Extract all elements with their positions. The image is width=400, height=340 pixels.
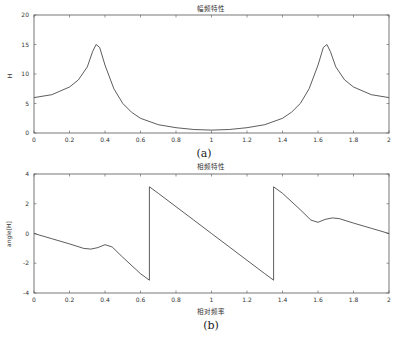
phase-caption: (b) [203,319,219,332]
y-tick-label: 2 [25,200,29,207]
magnitude-plot-frame [34,15,389,133]
x-tick-label: 0 [32,136,36,143]
x-tick-label: 0.8 [171,296,181,303]
phase-title: 相频特性 [197,162,225,171]
x-tick-label: 0.2 [65,296,75,303]
x-tick-label: 1.8 [349,136,359,143]
magnitude-chart: 幅频特性 00.20.40.60.811.21.41.61.82 0510152… [6,4,391,160]
x-tick-label: 1.6 [313,136,323,143]
y-tick-label: 0 [25,129,29,136]
figure: 幅频特性 00.20.40.60.811.21.41.61.82 0510152… [0,0,400,340]
x-tick-label: 0.2 [65,136,75,143]
x-tick-label: 1.2 [242,136,252,143]
y-tick-label: 5 [25,100,29,107]
magnitude-x-ticks: 00.20.40.60.811.21.41.61.82 [32,15,391,143]
x-tick-label: 1.4 [278,296,288,303]
magnitude-curve [34,45,389,131]
y-tick-label: 20 [21,11,29,18]
x-tick-label: 1.2 [242,296,252,303]
y-tick-label: 15 [21,41,29,48]
x-tick-label: 2 [387,136,391,143]
x-tick-label: 0 [32,296,36,303]
x-tick-label: 1.4 [278,136,288,143]
x-tick-label: 1 [210,296,214,303]
magnitude-caption: (a) [196,147,211,160]
phase-chart: 相频特性 00.20.40.60.811.21.41.61.82 -4-2024… [5,162,391,332]
x-tick-label: 0.6 [136,296,146,303]
y-tick-label: -2 [23,259,29,266]
y-tick-label: 4 [25,170,29,177]
magnitude-y-label: H [6,74,13,79]
phase-y-ticks: -4-2024 [23,170,389,296]
x-tick-label: 0.4 [100,296,110,303]
y-tick-label: -4 [23,289,29,296]
phase-y-label: angle[H] [5,221,13,247]
x-tick-label: 2 [387,296,391,303]
y-tick-label: 0 [25,230,29,237]
y-tick-label: 10 [21,70,29,77]
x-tick-label: 1.8 [349,296,359,303]
x-tick-label: 0.6 [136,136,146,143]
magnitude-title: 幅频特性 [197,4,225,13]
x-tick-label: 1 [210,136,214,143]
magnitude-y-ticks: 05101520 [21,11,389,136]
x-tick-label: 0.4 [100,136,110,143]
phase-x-label: 相对频率 [197,307,225,316]
x-tick-label: 1.6 [313,296,323,303]
phase-x-ticks: 00.20.40.60.811.21.41.61.82 [32,174,391,303]
x-tick-label: 0.8 [171,136,181,143]
phase-curve [34,187,389,280]
